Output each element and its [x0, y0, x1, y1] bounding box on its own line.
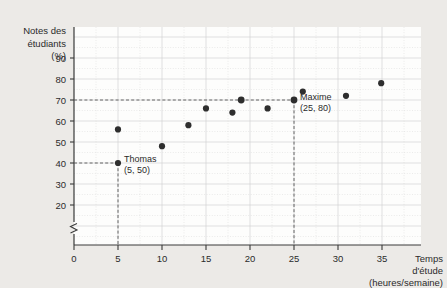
- x-tick-label: 15: [201, 253, 212, 264]
- annotation-thomas-coords: (5, 50): [124, 165, 150, 175]
- x-tick-label: 5: [115, 253, 120, 264]
- y-axis-title-line-2: étudiants: [27, 38, 66, 49]
- data-point[interactable]: [203, 105, 209, 111]
- y-axis-title-line-1: Notes des: [23, 25, 66, 36]
- x-tick-label: 25: [289, 253, 300, 264]
- data-point[interactable]: [238, 97, 245, 104]
- chart-canvas: 90 80 70 60 50 40 30 20 Notes des étudia…: [0, 0, 447, 288]
- annotation-maxime-name: Maxime: [300, 92, 332, 102]
- data-point[interactable]: [265, 105, 271, 111]
- data-point[interactable]: [343, 93, 349, 99]
- x-tick-label: 10: [157, 253, 168, 264]
- x-tick-label: 35: [377, 253, 388, 264]
- x-tick-label: 20: [245, 253, 256, 264]
- y-tick-label: 40: [55, 158, 66, 169]
- y-tick-label: 30: [55, 179, 66, 190]
- y-tick-label: 70: [55, 95, 66, 106]
- data-point[interactable]: [291, 97, 298, 104]
- plot-area-background: [74, 27, 421, 245]
- y-axis-title-line-3: (%): [51, 50, 66, 61]
- data-point[interactable]: [115, 126, 121, 132]
- x-tick-label: 0: [71, 253, 76, 264]
- y-tick-label: 50: [55, 137, 66, 148]
- data-point[interactable]: [185, 122, 191, 128]
- data-point[interactable]: [229, 110, 235, 116]
- y-tick-label: 60: [55, 116, 66, 127]
- x-axis-title-line-3: (heures/semaine): [369, 277, 443, 288]
- annotation-maxime-coords: (25, 80): [300, 103, 331, 113]
- data-point[interactable]: [115, 160, 121, 166]
- data-point[interactable]: [159, 143, 165, 149]
- x-axis-title-line-1: Temps: [415, 253, 443, 264]
- y-tick-label: 80: [55, 74, 66, 85]
- scatter-plot-figure: 90 80 70 60 50 40 30 20 Notes des étudia…: [0, 0, 447, 288]
- x-tick-label: 30: [333, 253, 344, 264]
- data-point[interactable]: [378, 80, 384, 86]
- x-axis-title-line-2: d'étude: [412, 265, 443, 276]
- annotation-maxime: Maxime (25, 80): [300, 92, 332, 113]
- y-tick-label: 20: [55, 200, 66, 211]
- annotation-thomas-name: Thomas: [124, 154, 157, 164]
